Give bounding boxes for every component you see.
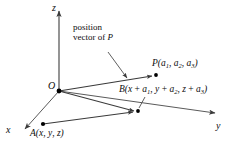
z-axis-label: z (52, 2, 56, 13)
point-b-suffix: ) (204, 84, 207, 94)
point-b-plus3: + (186, 84, 196, 94)
annotation-line-2-text: vector of (73, 32, 107, 42)
point-p-sub3: 3 (191, 62, 194, 69)
point-b-prefix: B( (119, 84, 128, 94)
vector-diagram-figure: z y x O P(a1, a2, a3) B(x + a1, y + a2, … (0, 0, 236, 149)
point-b-sub2: 2 (174, 88, 177, 95)
position-vector-annotation: position vector of P (73, 22, 113, 42)
y-axis-label: y (216, 120, 220, 131)
point-b-plus1: + (132, 84, 142, 94)
note-leader-line (108, 52, 127, 78)
point-p-dot (154, 73, 158, 77)
point-a-dot (41, 122, 45, 126)
x-axis-label: x (6, 124, 10, 135)
point-p-sub1: 1 (166, 62, 169, 69)
point-p-suffix: ) (194, 58, 197, 68)
point-a-prefix: A( (30, 128, 39, 138)
point-p-sub2: 2 (178, 62, 181, 69)
vector-ab (43, 112, 133, 124)
point-b-sub1: 1 (147, 88, 150, 95)
point-a-label: A(x, y, z) (30, 128, 64, 139)
point-p-label: P(a1, a2, a3) (152, 58, 198, 69)
origin-dot (57, 89, 62, 94)
diagram-canvas (0, 0, 236, 149)
annotation-line-2: vector of P (73, 32, 113, 42)
origin-label: O (48, 80, 55, 91)
point-b-a3: a (196, 84, 201, 94)
annotation-line-2-variable: P (107, 32, 113, 42)
point-p-prefix: P( (152, 58, 161, 68)
point-a-suffix: ) (61, 128, 64, 138)
annotation-line-1: position (73, 22, 113, 32)
point-b-dot (136, 109, 140, 113)
point-b-label: B(x + a1, y + a2, z + a3) (119, 84, 207, 95)
point-p-a1: a (161, 58, 166, 68)
point-b-plus2: + (159, 84, 169, 94)
point-b-sub3: 3 (201, 88, 204, 95)
